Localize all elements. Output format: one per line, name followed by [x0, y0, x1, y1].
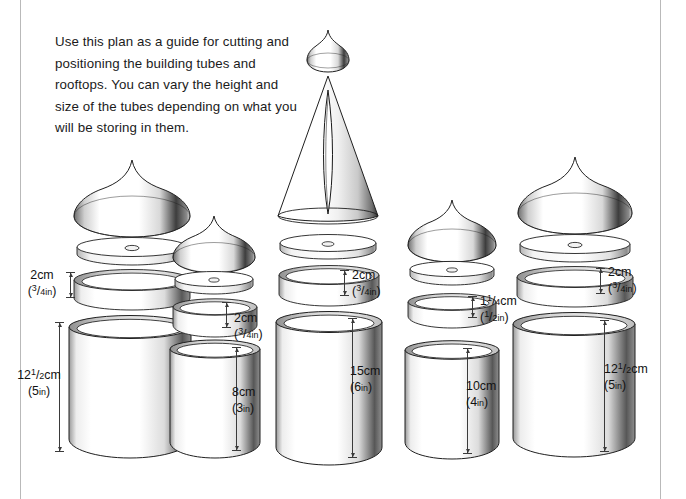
label-tube-4-metric: 10cm [466, 379, 496, 393]
label-lid-1: 2cm (3/4in) [16, 268, 68, 299]
label-lid-2-metric: 2cm [234, 311, 257, 325]
roof-disc-2 [173, 270, 255, 300]
roof-dome-2 [171, 214, 257, 276]
illustration-page: Use this plan as a guide for cutting and… [0, 0, 686, 499]
label-tube-1-imperial: (5in) [8, 384, 70, 400]
label-lid-5: 2cm (3/4in) [608, 265, 664, 296]
left-margin-rule [20, 0, 21, 499]
intro-paragraph: Use this plan as a guide for cutting and… [55, 31, 305, 139]
label-tube-5-metric: 121/2cm [604, 362, 648, 376]
label-lid-5-metric: 2cm [608, 265, 631, 279]
label-tube-5: 121/2cm (5in) [604, 362, 666, 393]
roof-dome-5 [516, 155, 634, 237]
dimension-arrow-lid-3 [340, 270, 349, 296]
label-tube-3: 15cm (6in) [350, 364, 408, 395]
label-lid-4-metric: 11/4cm [480, 294, 517, 308]
label-lid-1-metric: 2cm [30, 268, 53, 282]
roof-cone-3 [272, 28, 384, 228]
roof-disc-5 [518, 233, 632, 267]
label-lid-3-imperial: (3/4in) [352, 284, 408, 300]
dimension-arrow-lid-4 [468, 296, 477, 318]
roof-dome-4 [406, 198, 498, 266]
label-tube-2-metric: 8cm [232, 385, 255, 399]
roof-disc-3 [278, 233, 378, 265]
label-lid-3: 2cm (3/4in) [352, 268, 408, 299]
label-tube-1-metric: 121/2cm [17, 368, 61, 382]
label-lid-5-imperial: (3/4in) [608, 281, 664, 297]
roof-disc-4 [408, 260, 496, 290]
label-lid-1-imperial: (3/4in) [16, 284, 68, 300]
label-tube-3-imperial: (6in) [350, 380, 408, 396]
dimension-arrow-lid-5 [596, 268, 605, 294]
label-tube-5-imperial: (5in) [604, 378, 666, 394]
label-tube-3-metric: 15cm [350, 364, 380, 378]
right-margin-rule [660, 0, 661, 499]
label-lid-3-metric: 2cm [352, 268, 375, 282]
dimension-arrow-lid-2 [222, 302, 231, 328]
label-tube-1: 121/2cm (5in) [8, 368, 70, 399]
